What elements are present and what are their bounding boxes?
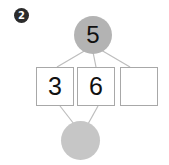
connector-bottom-to-box-2 [88,106,98,124]
worksheet-problem-canvas: 2 5 3 6 [0,0,169,165]
number-bond-bottom-circle[interactable] [61,121,100,160]
connector-top-to-box-2 [93,52,96,67]
connector-bottom-to-box-1 [60,106,74,124]
number-bond-box-3[interactable] [120,67,158,106]
connector-top-to-box-3 [101,50,130,67]
connector-top-to-box-1 [57,50,86,67]
number-bond-box-1[interactable]: 3 [36,67,74,106]
problem-number-badge: 2 [14,8,29,23]
number-bond-top-circle[interactable]: 5 [74,16,112,54]
number-bond-box-2[interactable]: 6 [77,67,115,106]
